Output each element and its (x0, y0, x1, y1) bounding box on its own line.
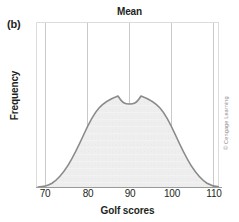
figure-panel-b: (b) Mean Frequency (0, 0, 239, 222)
x-axis-label: Golf scores (36, 205, 219, 216)
x-tick-90: 90 (125, 188, 136, 199)
x-tick-80: 80 (83, 188, 94, 199)
x-axis-ticks: 70 80 90 100 110 (0, 188, 239, 204)
x-tick-70: 70 (40, 188, 51, 199)
x-tick-100: 100 (164, 188, 180, 199)
normal-distribution-curve (38, 96, 221, 187)
x-tick-110: 110 (206, 188, 221, 199)
curve-fill (38, 96, 221, 187)
copyright-credit: © Cengage Learning (223, 83, 229, 163)
